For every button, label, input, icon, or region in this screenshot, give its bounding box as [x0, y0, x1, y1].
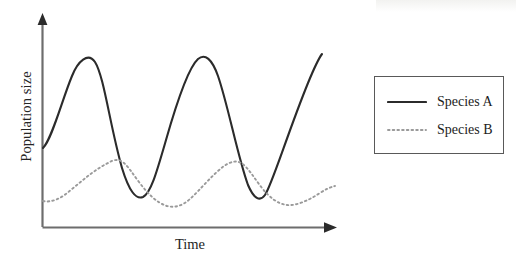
- legend-label-species-b: Species B: [437, 122, 493, 138]
- x-axis-label: Time: [120, 236, 260, 253]
- legend-entry-species-a: Species A: [375, 91, 503, 113]
- chart-legend: Species A Species B: [374, 76, 504, 154]
- chart-page: Population size Time Species A Species B: [0, 0, 516, 264]
- scan-edge-tint: [376, 0, 516, 12]
- y-axis-label: Population size: [18, 47, 35, 187]
- plot-canvas: [0, 0, 360, 264]
- y-axis-arrowhead: [38, 13, 48, 25]
- legend-swatch-solid-line-icon: [387, 96, 427, 108]
- series-line-species-b: [43, 160, 335, 207]
- series-line-species-a: [43, 54, 322, 199]
- population-vs-time-chart: Population size Time: [0, 0, 360, 264]
- x-axis-arrowhead: [324, 222, 337, 233]
- legend-label-species-a: Species A: [437, 94, 493, 110]
- legend-entry-species-b: Species B: [375, 119, 503, 141]
- legend-swatch-dotted-line-icon: [387, 124, 427, 136]
